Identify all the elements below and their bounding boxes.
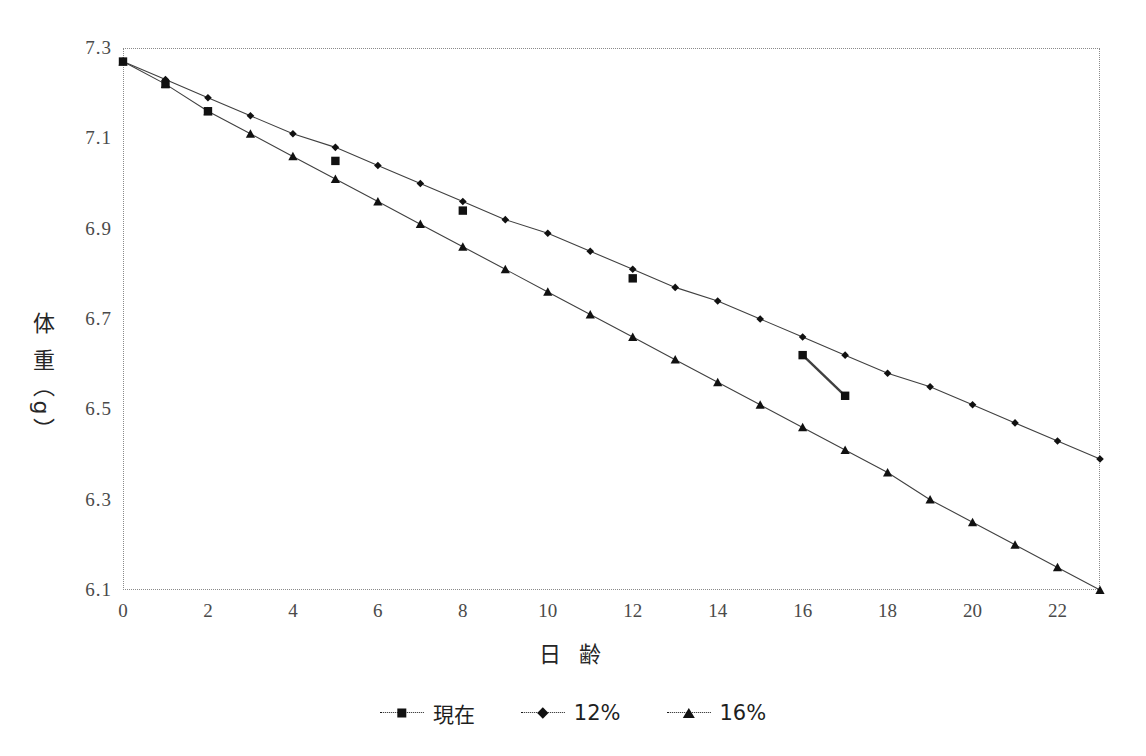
x-tick-label: 10 [528, 600, 568, 622]
y-tick-label: 6.9 [60, 218, 112, 240]
x-tick-label: 22 [1038, 600, 1078, 622]
y-tick-label: 6.1 [60, 579, 112, 601]
x-tick-label: 6 [358, 600, 398, 622]
x-tick-label: 4 [273, 600, 313, 622]
x-tick-label: 14 [698, 600, 738, 622]
x-tick-label: 18 [868, 600, 908, 622]
weight-loss-line-chart: 体 重（g） 7.37.16.96.76.56.36.1 02468101214… [0, 0, 1146, 756]
chart-legend: 現在12%16% [364, 694, 782, 732]
triangle-marker [683, 708, 695, 718]
legend-item[interactable]: 16% [667, 701, 767, 725]
x-tick-label: 20 [953, 600, 993, 622]
x-tick-label: 8 [443, 600, 483, 622]
y-tick-label: 6.5 [60, 398, 112, 420]
x-tick-label: 16 [783, 600, 823, 622]
legend-key [667, 706, 711, 720]
legend-label: 16% [720, 701, 767, 725]
y-tick-label: 6.7 [60, 308, 112, 330]
plot-area [123, 48, 1100, 590]
y-axis-title: 体 重（g） [10, 312, 54, 445]
y-tick-label: 7.3 [60, 37, 112, 59]
legend-item[interactable]: 12% [521, 701, 621, 725]
x-axis-title: 日 齢 [0, 636, 1146, 668]
legend-key [521, 706, 565, 720]
x-tick-label: 0 [103, 600, 143, 622]
x-tick-label: 2 [188, 600, 228, 622]
x-tick-label: 12 [613, 600, 653, 622]
legend-key [380, 706, 424, 720]
legend-item[interactable]: 現在 [380, 698, 475, 728]
square-marker [397, 709, 406, 718]
legend-label: 現在 [433, 698, 475, 728]
legend-label: 12% [574, 701, 621, 725]
y-tick-label: 6.3 [60, 489, 112, 511]
y-tick-label: 7.1 [60, 127, 112, 149]
diamond-marker [537, 707, 548, 718]
